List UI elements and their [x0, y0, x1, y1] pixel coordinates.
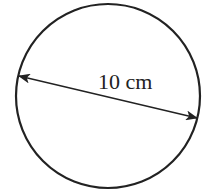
- diagram-svg: 10 cm: [0, 0, 208, 191]
- circle-diagram: 10 cm: [0, 0, 208, 191]
- circle: [16, 4, 200, 188]
- diameter-label: 10 cm: [98, 69, 152, 94]
